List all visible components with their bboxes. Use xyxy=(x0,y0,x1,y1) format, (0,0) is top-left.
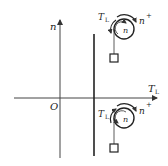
origin-label: O xyxy=(50,101,58,112)
y-axis-label: n xyxy=(50,21,56,32)
lower-pulley: n n + T L xyxy=(98,101,152,152)
inner-speed-label: n xyxy=(123,26,128,35)
speed-arrow xyxy=(117,104,136,111)
torque-sub: L xyxy=(105,16,109,23)
speed-label: n xyxy=(139,16,145,26)
torque-label: T xyxy=(98,109,105,119)
upper-pulley: n n + T L xyxy=(98,12,152,62)
speed-arrow xyxy=(117,15,136,22)
torque-label: T xyxy=(98,12,105,22)
inner-speed-label: n xyxy=(123,115,128,124)
speed-sign: + xyxy=(146,101,152,109)
weight-block xyxy=(110,54,118,62)
weight-block xyxy=(110,144,118,152)
x-axis-label-sub: L xyxy=(155,88,159,95)
speed-sign: + xyxy=(146,12,152,20)
torque-sub: L xyxy=(105,113,109,120)
speed-label: n xyxy=(139,106,145,116)
torque-speed-diagram: n T L O n n + T L n n + T L xyxy=(0,0,168,166)
